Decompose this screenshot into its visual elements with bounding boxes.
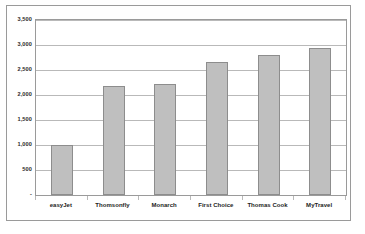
x-axis-ticks bbox=[35, 196, 347, 201]
x-tick-label: Thomsonfly bbox=[95, 202, 130, 208]
chart-figure: -5001,0001,5002,0002,5003,0003,500 easyJ… bbox=[6, 5, 351, 221]
x-tick bbox=[87, 196, 88, 200]
x-tick-label: First Choice bbox=[198, 202, 233, 208]
x-axis: easyJetThomsonflyMonarchFirst ChoiceThom… bbox=[35, 202, 347, 216]
x-tick-label: Thomas Cook bbox=[247, 202, 287, 208]
x-tick bbox=[190, 196, 191, 200]
y-tick-label: 3,000 bbox=[18, 41, 33, 47]
bar-easyjet bbox=[51, 145, 73, 196]
x-tick bbox=[293, 196, 294, 200]
y-tick-label: 3,500 bbox=[18, 16, 33, 22]
x-tick-label: Monarch bbox=[151, 202, 176, 208]
y-tick-label: - bbox=[30, 191, 32, 197]
y-tick-label: 2,000 bbox=[18, 91, 33, 97]
plot-area bbox=[35, 19, 347, 196]
x-tick bbox=[242, 196, 243, 200]
bar-thomas-cook bbox=[258, 55, 280, 196]
bars-layer bbox=[36, 20, 346, 195]
bar-mytravel bbox=[309, 48, 331, 195]
x-tick-label: MyTravel bbox=[306, 202, 332, 208]
x-tick-label: easyJet bbox=[50, 202, 72, 208]
x-tick bbox=[35, 196, 36, 200]
bar-first-choice bbox=[206, 62, 228, 195]
bar-thomsonfly bbox=[103, 86, 125, 196]
bar-monarch bbox=[154, 84, 176, 195]
x-tick bbox=[138, 196, 139, 200]
y-tick-label: 500 bbox=[22, 166, 32, 172]
y-axis: -5001,0001,5002,0002,5003,0003,500 bbox=[7, 6, 34, 220]
y-tick-label: 1,500 bbox=[18, 116, 33, 122]
y-tick-label: 1,000 bbox=[18, 141, 33, 147]
x-tick bbox=[345, 196, 346, 200]
y-tick-label: 2,500 bbox=[18, 66, 33, 72]
